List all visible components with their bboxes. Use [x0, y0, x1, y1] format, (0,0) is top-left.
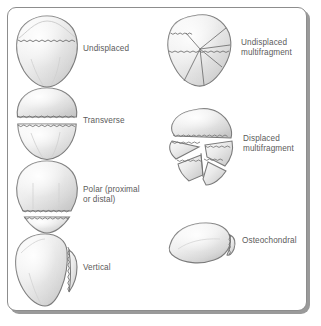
label-osteochondral: Osteochondral [242, 236, 308, 246]
patella-undisplaced-illustration [11, 13, 83, 89]
patella-undisplaced-multifragment-illustration [162, 11, 240, 93]
diagram-item-undisplaced-multifragment: Undisplaced multifragment [162, 11, 307, 93]
patella-osteochondral-illustration [162, 215, 242, 273]
diagram-item-displaced-multifragment: Displaced multifragment [159, 103, 307, 189]
diagram-item-undisplaced: Undisplaced [11, 13, 141, 89]
label-vertical: Vertical [83, 263, 141, 273]
patella-displaced-multifragment-illustration [159, 103, 243, 189]
label-displaced-multifragment: Displaced multifragment [243, 134, 307, 153]
diagram-root: Undisplaced [0, 0, 321, 326]
patella-vertical-illustration [11, 231, 83, 309]
diagram-item-polar: Polar (proximal or distal) [11, 157, 141, 237]
diagram-item-osteochondral: Osteochondral [162, 215, 308, 273]
patella-polar-illustration [11, 157, 83, 237]
diagram-item-vertical: Vertical [11, 231, 141, 309]
figure-canvas: Undisplaced [7, 7, 307, 311]
label-undisplaced: Undisplaced [83, 44, 141, 54]
label-undisplaced-multifragment: Undisplaced multifragment [241, 38, 305, 57]
label-polar: Polar (proximal or distal) [83, 185, 143, 204]
patella-transverse-illustration [11, 85, 83, 161]
label-transverse: Transverse [83, 116, 141, 126]
diagram-item-transverse: Transverse [11, 85, 141, 161]
